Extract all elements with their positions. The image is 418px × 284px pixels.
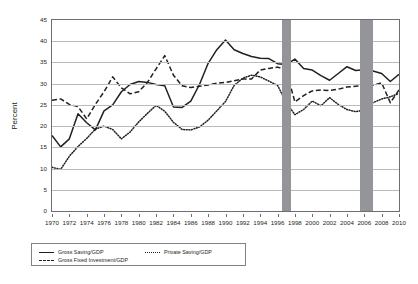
gross-saving-investment-chart: Percent 051015202530354045 1970197219741… — [0, 0, 418, 284]
x-tick-1988: 1988 — [201, 219, 215, 226]
x-tick-mark-1970 — [52, 214, 53, 217]
y-tick-5: 5 — [44, 187, 47, 193]
x-tick-mark-1988 — [208, 214, 209, 217]
y-tick-35: 35 — [40, 59, 47, 65]
x-tick-1996: 1996 — [271, 219, 285, 226]
x-tick-mark-2006 — [364, 214, 365, 217]
gridline-40 — [52, 41, 399, 42]
gridline-30 — [52, 84, 399, 85]
x-tick-mark-1980 — [139, 214, 140, 217]
gridline-25 — [52, 105, 399, 106]
second-highlight-band — [360, 20, 373, 211]
x-tick-mark-2008 — [382, 214, 383, 217]
gridline-10 — [52, 169, 399, 170]
x-tick-2004: 2004 — [340, 219, 354, 226]
y-tick-30: 30 — [40, 81, 47, 87]
y-tick-25: 25 — [40, 102, 47, 108]
y-tick-40: 40 — [40, 38, 47, 44]
x-tick-1978: 1978 — [115, 219, 129, 226]
x-tick-2010: 2010 — [392, 219, 406, 226]
y-axis-tick-labels: 051015202530354045 — [0, 0, 51, 232]
x-tick-1992: 1992 — [236, 219, 250, 226]
x-tick-1986: 1986 — [184, 219, 198, 226]
x-tick-mark-2000 — [312, 214, 313, 217]
legend-item-gross-fixed-investment-gdp[interactable]: Gross Fixed Investment/GDP — [39, 257, 128, 263]
legend-item-private-saving-gdp[interactable]: Private Saving/GDP — [145, 249, 212, 255]
gridline-20 — [52, 126, 399, 127]
x-tick-mark-1998 — [295, 214, 296, 217]
x-tick-mark-2002 — [330, 214, 331, 217]
x-tick-2002: 2002 — [323, 219, 337, 226]
y-tick-20: 20 — [40, 123, 47, 129]
x-tick-mark-1990 — [226, 214, 227, 217]
series-line-private-saving-gdp — [52, 75, 399, 169]
x-tick-1976: 1976 — [97, 219, 111, 226]
x-tick-2006: 2006 — [357, 219, 371, 226]
x-tick-mark-1984 — [173, 214, 174, 217]
x-tick-mark-1976 — [104, 214, 105, 217]
x-tick-1994: 1994 — [253, 219, 267, 226]
legend-item-gross-saving-gdp[interactable]: Gross Saving/GDP — [39, 249, 104, 255]
gridline-35 — [52, 62, 399, 63]
x-tick-1974: 1974 — [80, 219, 94, 226]
legend-swatch-dotted — [145, 252, 160, 253]
y-tick-15: 15 — [40, 144, 47, 150]
x-tick-1970: 1970 — [45, 219, 59, 226]
x-tick-1998: 1998 — [288, 219, 302, 226]
legend-swatch-solid — [39, 252, 54, 253]
gridline-15 — [52, 147, 399, 148]
x-tick-mark-1994 — [260, 214, 261, 217]
x-tick-mark-1986 — [191, 214, 192, 217]
x-tick-1980: 1980 — [132, 219, 146, 226]
x-tick-mark-1978 — [121, 214, 122, 217]
x-tick-mark-1974 — [87, 214, 88, 217]
legend-swatch-dashed — [39, 260, 54, 261]
x-tick-2008: 2008 — [375, 219, 389, 226]
x-tick-2000: 2000 — [305, 219, 319, 226]
x-tick-mark-1996 — [278, 214, 279, 217]
x-tick-1990: 1990 — [219, 219, 233, 226]
y-tick-45: 45 — [40, 17, 47, 23]
x-tick-1984: 1984 — [167, 219, 181, 226]
x-tick-mark-2010 — [399, 214, 400, 217]
gridline-5 — [52, 190, 399, 191]
series-lines — [52, 20, 399, 211]
x-tick-1982: 1982 — [149, 219, 163, 226]
chart-legend: Gross Saving/GDPGross Fixed Investment/G… — [31, 243, 246, 266]
x-tick-mark-2004 — [347, 214, 348, 217]
asian-financial-crisis-band — [282, 20, 291, 211]
legend-label: Gross Saving/GDP — [58, 249, 104, 255]
x-tick-mark-1992 — [243, 214, 244, 217]
series-line-gross-saving-gdp — [52, 40, 399, 147]
x-tick-mark-1972 — [69, 214, 70, 217]
x-axis-tick-labels: 1970197219741976197819801982198419861988… — [0, 214, 418, 230]
plot-area — [51, 19, 400, 212]
legend-label: Gross Fixed Investment/GDP — [58, 257, 128, 263]
legend-label: Private Saving/GDP — [164, 249, 212, 255]
x-tick-1972: 1972 — [62, 219, 76, 226]
y-tick-10: 10 — [40, 165, 47, 171]
x-tick-mark-1982 — [156, 214, 157, 217]
